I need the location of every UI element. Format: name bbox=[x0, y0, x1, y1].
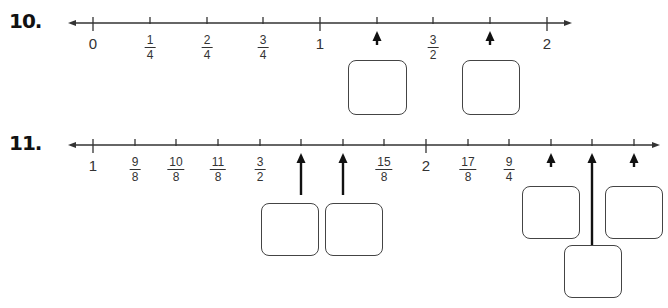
numerator: 2 bbox=[202, 34, 213, 48]
denominator: 4 bbox=[260, 48, 267, 61]
fraction-label: 34 bbox=[258, 34, 269, 61]
fraction-label: 158 bbox=[375, 156, 392, 183]
right-arrowhead-icon bbox=[652, 142, 660, 148]
numerator: 3 bbox=[428, 34, 439, 48]
tick-label: 1 bbox=[89, 158, 97, 173]
pointer-arrow-icon bbox=[297, 153, 306, 195]
denominator: 8 bbox=[465, 170, 472, 183]
pointer-arrow-icon bbox=[630, 153, 639, 167]
denominator: 4 bbox=[506, 170, 513, 183]
numerator: 11 bbox=[210, 156, 226, 170]
fraction-label: 178 bbox=[459, 156, 476, 183]
numerator: 17 bbox=[459, 156, 476, 170]
numerator: 3 bbox=[255, 156, 266, 170]
left-arrowhead-icon bbox=[68, 142, 76, 148]
answer-box[interactable] bbox=[261, 203, 319, 256]
denominator: 4 bbox=[147, 48, 154, 61]
numerator: 10 bbox=[167, 156, 184, 170]
pointer-arrow-icon bbox=[373, 31, 382, 45]
denominator: 2 bbox=[430, 48, 437, 61]
answer-box[interactable] bbox=[325, 203, 383, 256]
denominator: 8 bbox=[173, 170, 180, 183]
denominator: 8 bbox=[132, 170, 139, 183]
tick-label: 1 bbox=[316, 36, 324, 51]
fraction-label: 118 bbox=[210, 156, 226, 183]
pointer-arrow-icon bbox=[339, 153, 348, 195]
denominator: 4 bbox=[204, 48, 211, 61]
fraction-label: 108 bbox=[167, 156, 184, 183]
numerator: 9 bbox=[504, 156, 515, 170]
tick-label: 0 bbox=[89, 36, 97, 51]
denominator: 8 bbox=[215, 170, 222, 183]
numerator: 1 bbox=[145, 34, 156, 48]
right-arrowhead-icon bbox=[564, 20, 572, 26]
fraction-label: 14 bbox=[145, 34, 156, 61]
tick-label: 2 bbox=[543, 36, 551, 51]
numerator: 15 bbox=[375, 156, 392, 170]
fraction-label: 32 bbox=[255, 156, 266, 183]
answer-box[interactable] bbox=[462, 60, 520, 115]
fraction-label: 24 bbox=[202, 34, 213, 61]
pointer-arrow-icon bbox=[486, 31, 495, 45]
numerator: 3 bbox=[258, 34, 269, 48]
tick-label: 2 bbox=[422, 158, 430, 173]
denominator: 2 bbox=[257, 170, 264, 183]
answer-box[interactable] bbox=[348, 60, 407, 115]
fraction-label: 32 bbox=[428, 34, 439, 61]
left-arrowhead-icon bbox=[68, 20, 76, 26]
answer-box[interactable] bbox=[522, 186, 580, 239]
denominator: 8 bbox=[381, 170, 388, 183]
numerator: 9 bbox=[130, 156, 141, 170]
fraction-label: 94 bbox=[504, 156, 515, 183]
answer-box[interactable] bbox=[564, 245, 622, 298]
answer-box[interactable] bbox=[605, 186, 663, 239]
pointer-arrow-icon bbox=[547, 153, 556, 167]
fraction-label: 98 bbox=[130, 156, 141, 183]
